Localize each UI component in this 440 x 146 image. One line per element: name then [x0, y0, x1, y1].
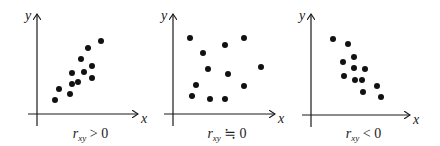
data-point — [352, 77, 358, 83]
data-point — [225, 71, 231, 77]
data-point — [360, 89, 366, 95]
data-point — [89, 75, 95, 81]
data-point — [345, 41, 351, 47]
data-point — [378, 94, 384, 100]
x-axis-label: x — [412, 112, 420, 127]
data-point — [340, 59, 346, 65]
positive-correlation-scatter-plot: yxrxy > 0 — [23, 8, 148, 143]
y-axis-label: y — [159, 8, 168, 23]
data-point — [351, 65, 357, 71]
data-point — [341, 73, 347, 79]
data-point — [374, 83, 380, 89]
scatter-figure: yxrxy > 0yxrxy ≒ 0yxrxy < 0 — [0, 0, 440, 146]
data-point — [56, 86, 62, 92]
data-point — [222, 96, 228, 102]
data-point — [359, 77, 365, 83]
data-point — [258, 64, 264, 70]
data-point — [67, 91, 73, 97]
data-point — [222, 42, 228, 48]
data-point — [78, 56, 84, 62]
data-point — [241, 83, 247, 89]
data-point — [52, 97, 58, 103]
data-point — [89, 63, 95, 69]
correlation-caption: rxy > 0 — [73, 126, 108, 143]
data-point — [330, 36, 336, 42]
data-point — [187, 35, 193, 41]
y-axis-label: y — [23, 8, 32, 23]
x-axis-label: x — [140, 111, 148, 126]
data-point — [75, 79, 81, 85]
y-axis-label: y — [297, 8, 306, 23]
data-point — [81, 69, 87, 75]
data-point — [241, 35, 247, 41]
data-point — [69, 81, 75, 87]
negative-correlation-scatter-plot: yxrxy < 0 — [297, 8, 420, 143]
x-axis-label: x — [277, 111, 285, 126]
data-point — [189, 93, 195, 99]
data-point — [98, 38, 104, 44]
data-point — [351, 54, 357, 60]
data-point — [205, 66, 211, 72]
correlation-caption: rxy ≒ 0 — [207, 126, 246, 143]
data-point — [69, 70, 75, 76]
data-point — [85, 45, 91, 51]
no-correlation-scatter-plot: yxrxy ≒ 0 — [159, 8, 285, 143]
data-point — [193, 82, 199, 88]
data-point — [200, 50, 206, 56]
correlation-caption: rxy < 0 — [346, 126, 381, 143]
data-point — [207, 96, 213, 102]
data-point — [362, 66, 368, 72]
